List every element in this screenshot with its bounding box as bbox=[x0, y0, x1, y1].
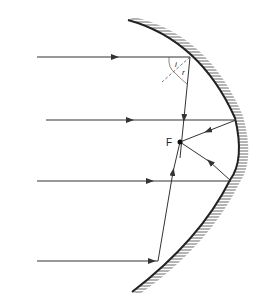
angle-arc-r bbox=[175, 73, 187, 84]
diagram: i r F bbox=[0, 0, 262, 299]
angle-r-label: r bbox=[182, 68, 185, 77]
focus-point bbox=[178, 140, 183, 145]
angle-i-label: i bbox=[175, 60, 177, 69]
mirror-diagram: i r F bbox=[0, 0, 262, 299]
ray-3 bbox=[37, 142, 231, 181]
ray-4 bbox=[37, 142, 180, 261]
focus-label: F bbox=[166, 137, 172, 148]
ray-2 bbox=[46, 120, 236, 142]
